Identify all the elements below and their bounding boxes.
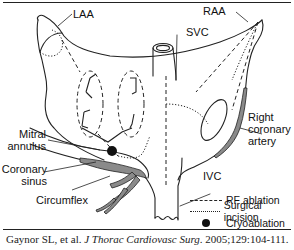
citation-journal: J Thorac Cardiovasc Surg — [84, 233, 200, 245]
pv-right-lower — [130, 114, 134, 128]
citation: Gaynor SL, et al. J Thorac Cardiovasc Su… — [6, 233, 289, 245]
label-right-coronary-artery-3: artery — [248, 135, 276, 147]
filled-circle-swatch-icon — [190, 219, 222, 227]
label-coronary-sinus-2: sinus — [10, 175, 47, 187]
mitral-annulus-leader — [48, 140, 100, 150]
pv-left-upper — [86, 74, 96, 98]
circumflex-leader — [72, 176, 110, 190]
citation-details: . 2005;129:104-111. — [200, 233, 289, 245]
raa-leader — [236, 12, 248, 22]
label-svc: SVC — [186, 26, 209, 38]
right-atrial-oval — [196, 96, 233, 144]
label-mitral-annulus-2: annulus — [2, 140, 46, 152]
ivc-bottom-wavy — [155, 217, 178, 220]
label-mitral-annulus-1: Mitral — [10, 128, 46, 140]
laa-connecting-lesion — [62, 40, 80, 72]
dotted-line-swatch-icon — [190, 207, 220, 215]
laa-lower-contour — [37, 20, 104, 160]
label-right-coronary-artery-1: Right — [248, 111, 274, 123]
figure-frame: LAA RAA SVC Right coronary artery Mitral… — [0, 0, 294, 250]
mitral-isthmus-incision — [118, 136, 150, 158]
pv-left-lower — [82, 110, 90, 128]
legend-item-cryoablation: Cryoablation — [190, 217, 294, 229]
left-pv-encircling-lesion — [77, 71, 103, 137]
heart-outline-top — [37, 15, 262, 57]
ivc-left-wall — [146, 178, 155, 218]
citation-authors: Gaynor SL, et al. — [6, 233, 81, 245]
label-ivc: IVC — [203, 170, 221, 182]
svc-opening-inner — [157, 45, 170, 50]
bottom-rule — [3, 229, 291, 230]
label-coronary-sinus-1: Coronary — [0, 163, 47, 175]
pv-right-upper — [130, 78, 136, 94]
coronary-sinus-vessel — [80, 158, 146, 178]
label-right-coronary-artery-2: coronary — [248, 123, 291, 135]
ivc-right-wall — [178, 158, 182, 220]
ra-incision — [166, 104, 208, 124]
cryoablation-dot — [107, 146, 117, 156]
circumflex-branch-3 — [104, 188, 128, 214]
legend: RF ablation Surgical incision Cryoablati… — [190, 194, 294, 229]
right-coronary-vessel — [214, 88, 247, 158]
laa-leader — [58, 14, 72, 26]
laa-incision — [40, 30, 63, 56]
label-circumflex: Circumflex — [36, 194, 88, 206]
pv-connecting-box — [82, 128, 132, 142]
dashed-line-swatch-icon — [190, 196, 222, 204]
legend-label-cryoablation: Cryoablation — [226, 217, 285, 229]
coronary-sinus-leader — [44, 162, 96, 172]
label-raa: RAA — [203, 5, 226, 17]
label-laa: LAA — [73, 8, 94, 20]
legend-item-surgical-incision: Surgical incision — [190, 206, 294, 218]
svc-leader — [176, 35, 177, 80]
laa-inner-curve — [40, 33, 62, 52]
